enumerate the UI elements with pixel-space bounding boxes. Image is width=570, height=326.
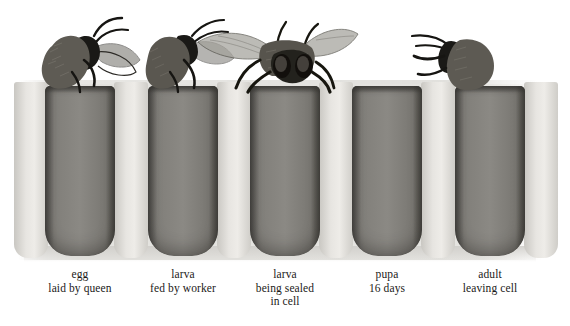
brood-cell-larva-fed bbox=[148, 86, 218, 256]
cell-inner-shadow-right bbox=[209, 86, 218, 256]
cell-wall bbox=[455, 86, 525, 256]
label-subtitle-line2: in cell bbox=[215, 295, 355, 309]
cell-partition bbox=[524, 82, 558, 258]
cell-inner-shadow-left bbox=[250, 86, 259, 256]
brood-cell-adult bbox=[455, 86, 525, 256]
label-title: adult bbox=[420, 268, 560, 282]
cell-wall bbox=[45, 86, 115, 256]
brood-cell-larva-sealed bbox=[250, 86, 320, 256]
bee-front bbox=[180, 0, 350, 92]
label-subtitle: leaving cell bbox=[420, 282, 560, 296]
cell-inner-shadow-left bbox=[455, 86, 464, 256]
cell-inner-shadow-left bbox=[45, 86, 54, 256]
brood-cell-pupa bbox=[352, 86, 422, 256]
cell-inner-shadow-right bbox=[516, 86, 525, 256]
stage-labels: egg laid by queen larva fed by worker la… bbox=[0, 262, 570, 322]
cell-partition bbox=[217, 82, 251, 258]
cell-partition bbox=[421, 82, 455, 258]
cell-wall bbox=[148, 86, 218, 256]
cell-partition bbox=[114, 82, 148, 258]
cell-inner-shadow-left bbox=[148, 86, 157, 256]
cell-inner-shadow-right bbox=[311, 86, 320, 256]
cell-partition bbox=[14, 82, 48, 258]
cell-wall bbox=[250, 86, 320, 256]
cell-partition bbox=[319, 82, 353, 258]
cell-inner-shadow-right bbox=[106, 86, 115, 256]
cell-inner-shadow-right bbox=[413, 86, 422, 256]
cell-inner-shadow-left bbox=[352, 86, 361, 256]
bee-capper bbox=[398, 16, 528, 92]
label-stage-adult: adult leaving cell bbox=[420, 268, 560, 295]
cell-wall bbox=[352, 86, 422, 256]
brood-cell-egg bbox=[45, 86, 115, 256]
